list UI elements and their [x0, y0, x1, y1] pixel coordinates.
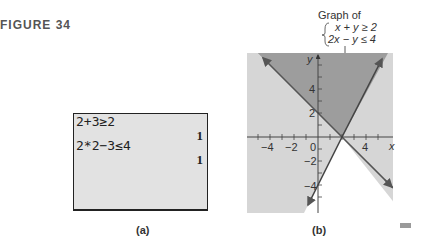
- y-tick-4: 4: [309, 83, 315, 95]
- x-tick-neg4: −4: [261, 141, 274, 153]
- y-tick-neg4: −4: [304, 180, 317, 192]
- brace-icon: [322, 23, 329, 46]
- inequality-graph: [0, 0, 423, 248]
- x-tick-0: 0: [310, 141, 316, 153]
- y-tick-neg2: −2: [304, 155, 317, 167]
- x-tick-4: 4: [362, 141, 368, 153]
- x-tick-neg2: −2: [285, 141, 298, 153]
- y-tick-2: 2: [309, 107, 315, 119]
- x-axis-label: x: [389, 140, 395, 152]
- y-axis-label: y: [307, 53, 313, 65]
- caption-b: (b): [312, 224, 326, 236]
- end-marker-square: [400, 223, 411, 228]
